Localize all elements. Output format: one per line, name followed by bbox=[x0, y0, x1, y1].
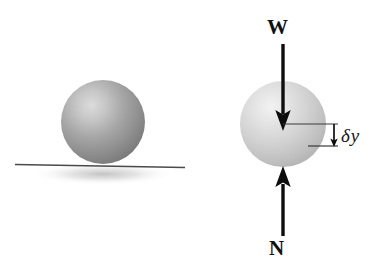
physics-figure: W N δy bbox=[0, 0, 382, 267]
delta-y-label: δy bbox=[341, 126, 359, 145]
right-panel-group bbox=[240, 44, 338, 236]
normal-force-label: N bbox=[269, 238, 284, 259]
sphere-shaded-icon-left bbox=[61, 80, 145, 164]
delta-symbol: δ bbox=[341, 125, 350, 146]
normal-force-arrow bbox=[275, 166, 290, 236]
normal-arrow-head bbox=[275, 166, 290, 187]
weight-force-label: W bbox=[267, 17, 288, 38]
y-variable-symbol: y bbox=[350, 125, 359, 146]
left-panel-group bbox=[15, 80, 185, 185]
figure-canvas bbox=[0, 0, 382, 267]
